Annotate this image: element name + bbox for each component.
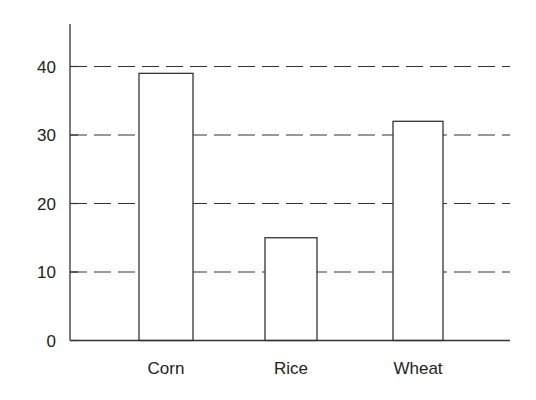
bar-corn xyxy=(139,73,193,340)
bar-rice xyxy=(265,238,317,341)
y-tick-label: 40 xyxy=(37,58,56,77)
y-tick-label: 0 xyxy=(47,332,56,351)
category-label: Wheat xyxy=(393,359,442,378)
bar-chart: 010203040 CornRiceWheat xyxy=(0,0,536,400)
x-category-labels: CornRiceWheat xyxy=(148,359,443,378)
y-tick-labels: 010203040 xyxy=(37,58,78,351)
category-label: Rice xyxy=(274,359,308,378)
bars xyxy=(139,73,443,340)
bar-wheat xyxy=(393,121,443,340)
y-tick-label: 30 xyxy=(37,126,56,145)
category-label: Corn xyxy=(148,359,185,378)
y-tick-label: 10 xyxy=(37,263,56,282)
y-tick-label: 20 xyxy=(37,195,56,214)
